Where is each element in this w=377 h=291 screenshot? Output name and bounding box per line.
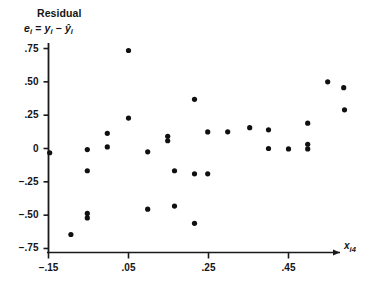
equation-equals: = bbox=[35, 22, 41, 34]
residual-equation-label: ei = yi − ŷi bbox=[24, 22, 73, 36]
scatter-point bbox=[325, 79, 330, 84]
scatter-point bbox=[145, 149, 150, 154]
equation-yhat-sub: i bbox=[71, 27, 73, 36]
scatter-point bbox=[205, 171, 210, 176]
scatter-point bbox=[85, 168, 90, 173]
scatter-point bbox=[105, 131, 110, 136]
x-tick-label: −.15 bbox=[29, 262, 69, 273]
scatter-point bbox=[126, 48, 131, 53]
scatter-point bbox=[266, 127, 271, 132]
scatter-point bbox=[286, 146, 291, 151]
scatter-point bbox=[105, 144, 110, 149]
data-points-group bbox=[47, 48, 347, 237]
scatter-point bbox=[85, 211, 90, 216]
y-tick-label: −.75 bbox=[5, 242, 39, 253]
x-tick-label: .05 bbox=[109, 262, 149, 273]
equation-minus: − bbox=[56, 22, 62, 34]
scatter-point bbox=[126, 116, 131, 121]
residual-scatter-plot: Residual ei = yi − ŷi .75.50.250−.25−.50… bbox=[0, 0, 377, 291]
equation-e-sub: i bbox=[30, 27, 32, 36]
scatter-point bbox=[85, 215, 90, 220]
scatter-point bbox=[305, 146, 310, 151]
scatter-point bbox=[341, 85, 346, 90]
scatter-point bbox=[192, 97, 197, 102]
scatter-point bbox=[305, 121, 310, 126]
x-tick-label: .45 bbox=[269, 262, 309, 273]
scatter-point bbox=[47, 150, 52, 155]
y-tick-label: .50 bbox=[5, 76, 39, 87]
y-tick-label: .75 bbox=[5, 43, 39, 54]
y-tick-label: −.25 bbox=[5, 176, 39, 187]
x-axis-subscript: i4 bbox=[350, 245, 356, 254]
x-tick-label: .25 bbox=[189, 262, 229, 273]
y-tick-label: 0 bbox=[5, 143, 39, 154]
chart-canvas bbox=[0, 0, 377, 291]
x-axis-title: xi4 bbox=[344, 240, 356, 254]
scatter-point bbox=[68, 232, 73, 237]
scatter-point bbox=[225, 129, 230, 134]
scatter-point bbox=[85, 147, 90, 152]
scatter-point bbox=[266, 146, 271, 151]
scatter-point bbox=[305, 142, 310, 147]
x-tick-marks bbox=[49, 253, 289, 259]
scatter-point bbox=[192, 221, 197, 226]
plot-title: Residual bbox=[37, 7, 82, 19]
scatter-point bbox=[247, 125, 252, 130]
scatter-point bbox=[192, 171, 197, 176]
scatter-point bbox=[145, 207, 150, 212]
scatter-point bbox=[205, 129, 210, 134]
scatter-point bbox=[172, 203, 177, 208]
y-tick-label: −.50 bbox=[5, 209, 39, 220]
y-tick-label: .25 bbox=[5, 109, 39, 120]
scatter-point bbox=[342, 107, 347, 112]
x-axis-arrow bbox=[333, 250, 340, 256]
scatter-point bbox=[165, 138, 170, 143]
scatter-point bbox=[172, 168, 177, 173]
equation-y-sub: i bbox=[50, 27, 52, 36]
